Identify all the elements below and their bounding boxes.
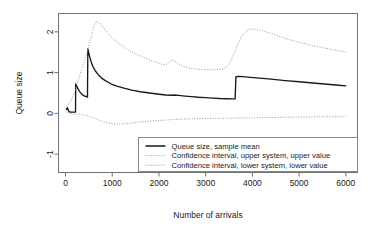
legend-label-1: Confidence interval, upper system, upper…: [172, 151, 331, 160]
y-tick-label: 1: [46, 70, 56, 75]
y-axis-ticks: [55, 32, 59, 154]
series-line-2: [66, 112, 345, 124]
x-tick-label: 5000: [290, 178, 309, 188]
legend-label-0: Queue size, sample mean: [172, 142, 260, 151]
legend-label-2: Confidence interval, lower system, lower…: [172, 161, 328, 170]
x-tick-label: 6000: [336, 178, 355, 188]
chart-legend: Queue size, sample meanConfidence interv…: [139, 138, 358, 172]
y-tick-label: -1: [46, 150, 56, 158]
queue-size-line-chart: -1012 0100020003000400050006000 Queue si…: [0, 0, 373, 235]
x-tick-label: 2000: [149, 178, 168, 188]
x-tick-label: 3000: [196, 178, 215, 188]
x-tick-label: 4000: [243, 178, 262, 188]
chart-container: -1012 0100020003000400050006000 Queue si…: [0, 0, 373, 235]
y-tick-label: 2: [46, 29, 56, 34]
series-line-1: [66, 22, 345, 106]
series-line-0: [66, 49, 345, 112]
y-axis-title: Queue size: [14, 71, 24, 114]
y-axis-tick-labels: -1012: [46, 29, 56, 158]
x-tick-label: 1000: [103, 178, 122, 188]
x-axis-ticks: [66, 173, 346, 177]
y-tick-label: 0: [46, 111, 56, 116]
x-axis-tick-labels: 0100020003000400050006000: [63, 178, 355, 188]
x-axis-title: Number of arrivals: [173, 210, 242, 220]
data-series-layer: [66, 22, 345, 124]
x-tick-label: 0: [63, 178, 68, 188]
